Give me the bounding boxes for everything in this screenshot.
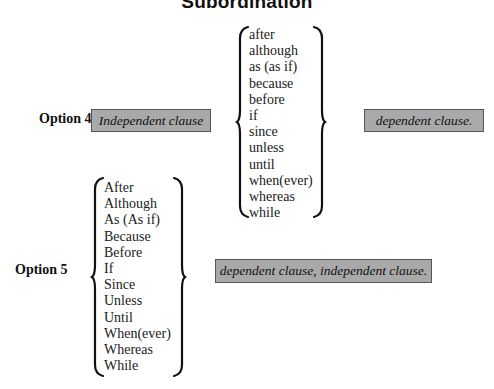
left-brace-icon [91, 177, 105, 377]
page-title: Subordination [0, 0, 494, 13]
conjunction-item: although [249, 43, 313, 59]
conjunction-item: Unless [104, 293, 171, 309]
conjunction-item: Until [104, 310, 171, 326]
dependent-clause-box: dependent clause. [364, 109, 484, 132]
conjunction-item: if [249, 108, 313, 124]
conjunction-item: When(ever) [104, 326, 171, 342]
conjunction-item: whereas [249, 189, 313, 205]
conjunction-item: as (as if) [249, 59, 313, 75]
conjunction-item: while [249, 205, 313, 221]
conjunction-item: unless [249, 140, 313, 156]
conjunction-item: after [249, 27, 313, 43]
option-4-label: Option 4 [39, 111, 92, 127]
conjunction-item: when(ever) [249, 173, 313, 189]
independent-clause-box: Independent clause [91, 109, 211, 132]
conjunction-item: until [249, 157, 313, 173]
conjunction-item: Since [104, 277, 171, 293]
conjunction-item: Whereas [104, 342, 171, 358]
conjunction-item: before [249, 92, 313, 108]
conjunction-item: Because [104, 229, 171, 245]
dependent-independent-clause-box: dependent clause, independent clause. [215, 259, 432, 283]
right-brace-icon [312, 26, 326, 218]
option-4-conjunction-list: afteralthoughas (as if)becausebeforeifsi… [249, 27, 313, 221]
right-brace-icon [172, 177, 186, 377]
conjunction-item: Before [104, 245, 171, 261]
conjunction-item: Although [104, 196, 171, 212]
option-5-label: Option 5 [15, 262, 68, 278]
conjunction-item: because [249, 76, 313, 92]
conjunction-item: While [104, 358, 171, 374]
conjunction-item: since [249, 124, 313, 140]
option-5-conjunction-list: AfterAlthoughAs (As if)BecauseBeforeIfSi… [104, 180, 171, 374]
conjunction-item: After [104, 180, 171, 196]
conjunction-item: As (As if) [104, 212, 171, 228]
left-brace-icon [236, 26, 250, 218]
conjunction-item: If [104, 261, 171, 277]
